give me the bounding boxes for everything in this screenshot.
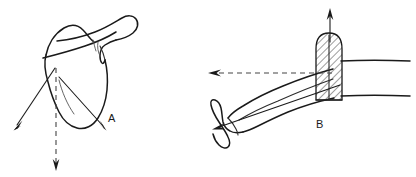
trunk-upper-border (341, 60, 410, 61)
trunk-lower-border (341, 95, 410, 96)
panel-a-label: A (108, 112, 116, 124)
figure-root: A (0, 0, 416, 177)
panel-b-label: B (316, 118, 324, 130)
figure-background (0, 0, 416, 177)
figure-svg: A (0, 0, 416, 177)
